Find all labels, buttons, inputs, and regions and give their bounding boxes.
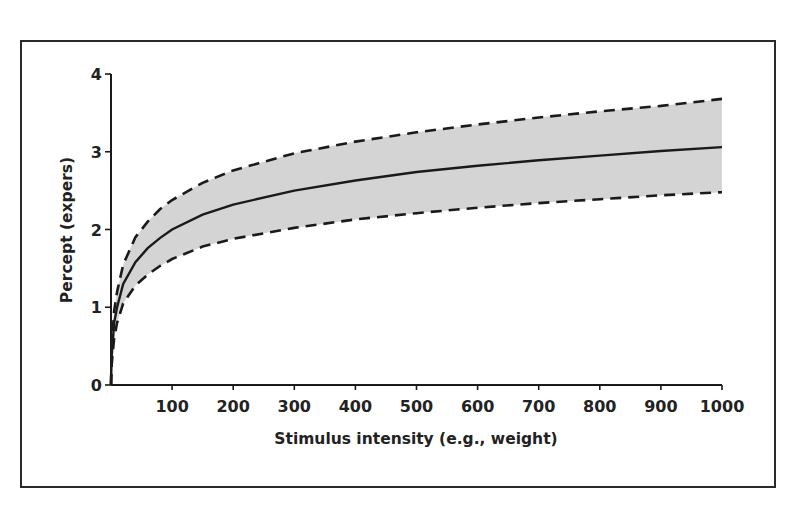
- x-tick-label: 300: [278, 397, 311, 416]
- x-tick-label: 900: [644, 397, 677, 416]
- x-tick-label: 600: [461, 397, 494, 416]
- x-tick-label: 1000: [700, 397, 745, 416]
- x-tick-label: 700: [522, 397, 555, 416]
- y-tick-label: 2: [91, 221, 102, 240]
- y-tick-label: 1: [91, 298, 102, 317]
- y-tick-label: 0: [91, 376, 102, 395]
- chart: 012341002003004005006007008009001000 Sti…: [0, 0, 808, 524]
- y-axis-title: Percept (expers): [58, 157, 76, 303]
- x-tick-label: 400: [339, 397, 372, 416]
- x-axis-title: Stimulus intensity (e.g., weight): [274, 430, 557, 448]
- x-tick-label: 500: [400, 397, 433, 416]
- y-tick-label: 3: [91, 143, 102, 162]
- y-tick-label: 4: [91, 65, 102, 84]
- x-tick-label: 200: [216, 397, 249, 416]
- confidence-band: [111, 99, 722, 385]
- x-tick-label: 800: [583, 397, 616, 416]
- x-tick-label: 100: [155, 397, 188, 416]
